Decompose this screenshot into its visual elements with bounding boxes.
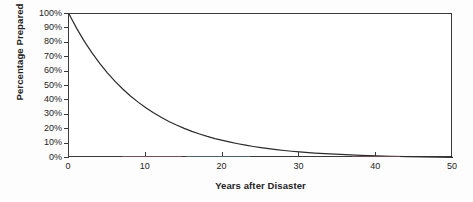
plot-canvas	[69, 14, 453, 158]
x-tick-label: 20	[207, 162, 237, 171]
x-tick-label: 50	[437, 162, 467, 171]
baseline-artifact-teal	[186, 156, 250, 157]
y-tick-label: 20%	[26, 124, 62, 133]
y-axis-title: Percentage Prepared	[14, 0, 28, 117]
x-tick-label: 30	[283, 162, 313, 171]
y-tick-label: 70%	[26, 52, 62, 61]
x-axis-title: Years after Disaster	[68, 180, 453, 191]
y-tick-label: 80%	[26, 37, 62, 46]
x-tick-mark	[298, 152, 299, 157]
y-tick-label: 30%	[26, 109, 62, 118]
y-tick-label: 40%	[26, 95, 62, 104]
plot-area	[68, 13, 452, 157]
decay-curve	[69, 14, 453, 157]
baseline-artifact-red	[122, 156, 182, 157]
x-tick-label: 0	[53, 162, 83, 171]
chart-figure: Percentage Prepared 0%10%20%30%40%50%60%…	[0, 0, 473, 202]
baseline-artifact-red-2	[352, 156, 400, 157]
y-tick-label: 0%	[26, 153, 62, 162]
y-tick-label: 50%	[26, 81, 62, 90]
y-tick-label: 10%	[26, 138, 62, 147]
x-tick-label: 40	[360, 162, 390, 171]
y-tick-label: 90%	[26, 23, 62, 32]
x-tick-label: 10	[130, 162, 160, 171]
y-tick-label: 60%	[26, 66, 62, 75]
y-tick-label: 100%	[26, 9, 62, 18]
